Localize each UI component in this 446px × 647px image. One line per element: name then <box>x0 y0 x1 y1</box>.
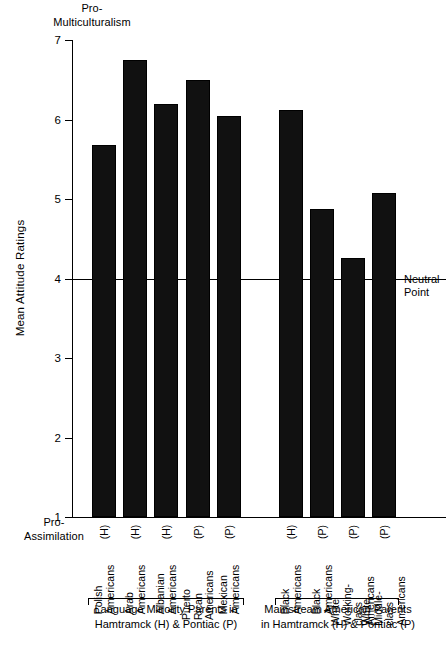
bar-puerto-rican-americans-p <box>186 80 210 517</box>
category-label-2: (H) Albanian Americans <box>154 520 178 610</box>
bar-white-middle-class-americans-p <box>372 193 396 517</box>
y-tick-label-3: 3 <box>55 352 61 364</box>
category-site-2: (H) <box>160 525 172 540</box>
bar-white-working-class-americans-p <box>341 258 365 517</box>
category-site-8: (P) <box>378 525 390 539</box>
y-tick-label-2: 2 <box>55 432 61 444</box>
category-site-5: (H) <box>285 525 297 540</box>
bar-polish-americans-h <box>92 145 116 517</box>
bar-arab-americans-h <box>123 60 147 517</box>
y-tick-label-7: 7 <box>55 34 61 46</box>
axis-pole-top-label: Pro- Multiculturalism <box>22 2 162 29</box>
y-tick-label-1: 1 <box>55 511 61 523</box>
bar-black-americans-h <box>279 110 303 517</box>
y-tick-label-6: 6 <box>55 114 61 126</box>
bar-black-americans-p <box>310 209 334 517</box>
y-axis-title: Mean Attitude Ratings <box>14 220 26 337</box>
x-axis-line <box>72 517 446 518</box>
category-site-1: (H) <box>129 525 141 540</box>
category-site-4: (P) <box>223 525 235 539</box>
category-site-7: (P) <box>347 525 359 539</box>
bar-mexican-americans-p <box>217 116 241 517</box>
category-label-5: (H) Black Americans <box>279 520 303 610</box>
category-label-8: (P) White Middle-class Americans <box>372 520 396 610</box>
category-site-3: (P) <box>192 525 204 539</box>
category-label-3: (P) Puerto Rican Americans <box>186 520 210 610</box>
plot-area: Mean Attitude Ratings 7 6 5 4 3 2 1 <box>72 40 446 517</box>
chart-figure: Pro- Multiculturalism Pro- Assimilation … <box>0 0 446 647</box>
category-label-1: (H) Arab Americans <box>123 520 147 610</box>
group-caption-1: Mainstream American Parents in Hamtramck… <box>252 602 424 632</box>
y-tick-label-4: 4 <box>55 273 61 285</box>
group-caption-0: Language Minority Parents in Hamtramck (… <box>80 602 252 632</box>
category-label-4: (P) Mexican Americans <box>217 520 241 610</box>
category-label-0: (H) Polish Americans <box>92 520 116 610</box>
y-tick-label-5: 5 <box>55 193 61 205</box>
neutral-point-label: Neutral Point <box>404 273 439 299</box>
category-site-0: (H) <box>98 525 110 540</box>
category-site-6: (P) <box>316 525 328 539</box>
bar-albanian-americans-h <box>154 104 178 517</box>
